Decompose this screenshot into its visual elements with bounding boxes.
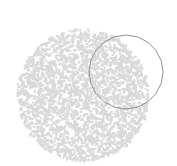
venn-diagram (0, 0, 177, 166)
